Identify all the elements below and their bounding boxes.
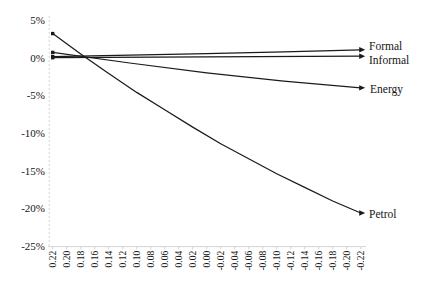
x-tick-label: -0.20 [342,251,352,271]
series-end-marker-energy [359,85,365,90]
x-tick-label: 0.14 [104,251,114,268]
series-start-marker-energy [51,51,54,54]
y-tick-label: -15% [21,165,45,177]
y-tick-label: -25% [21,240,45,252]
series-label-informal: Informal [369,55,409,67]
series-label-petrol: Petrol [369,209,396,221]
x-tick-label: 0.12 [118,251,128,268]
x-tick-label: 0.22 [48,251,58,268]
x-tick-label: -0.22 [356,251,366,271]
x-tick-label: 0.20 [62,251,72,268]
x-tick-label: 0.18 [76,251,86,268]
y-tick-label: -10% [21,127,45,139]
x-tick-label: 0.10 [132,251,142,268]
x-tick-label: 0.04 [174,251,184,268]
x-tick-label: 0.16 [90,251,100,268]
x-tick-label: 0.02 [188,251,198,268]
y-tick-label: -20% [21,202,45,214]
y-tick-label: 5% [30,14,45,26]
series-label-energy: Energy [370,84,403,96]
y-tick-label: -5% [27,89,45,101]
line-chart-figure: 5%0%-5%-10%-15%-20%-25%0.220.200.180.160… [0,0,425,293]
chart-canvas: 5%0%-5%-10%-15%-20%-25%0.220.200.180.160… [0,0,425,293]
x-tick-label: -0.14 [300,251,310,271]
series-line-informal [53,56,361,58]
series-label-formal: Formal [369,41,402,53]
series-line-formal [53,50,361,57]
series-start-marker-petrol [51,32,54,35]
x-tick-label: -0.06 [244,251,254,271]
x-tick-label: 0.08 [146,251,156,268]
x-tick-label: -0.10 [272,251,282,271]
x-tick-label: 0.06 [160,251,170,268]
x-tick-label: -0.16 [314,251,324,271]
x-tick-label: -0.18 [328,251,338,271]
y-tick-label: 0% [30,52,45,64]
x-tick-label: -0.08 [258,251,268,271]
x-tick-label: 0.00 [202,251,212,268]
series-end-marker-formal [359,47,365,52]
x-tick-label: -0.02 [216,251,226,271]
x-tick-label: -0.04 [230,251,240,271]
series-end-marker-petrol [359,210,365,215]
series-line-petrol [53,34,361,213]
series-start-marker-informal [51,56,54,59]
x-tick-label: -0.12 [286,251,296,271]
series-end-marker-informal [359,53,365,58]
